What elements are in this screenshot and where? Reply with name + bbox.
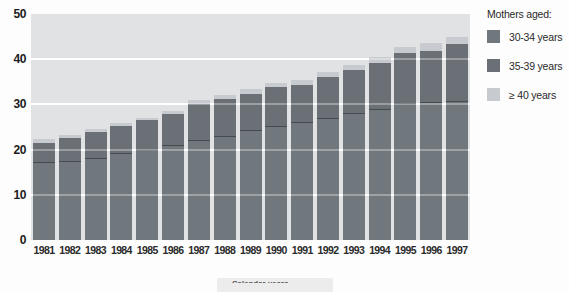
gridline-overlay-40 (31, 58, 470, 60)
bar-segment-1996-30-34 (420, 103, 442, 240)
bar-segment-1981-30-34 (33, 163, 55, 240)
bar-1987 (188, 100, 210, 240)
bar-segment-1990-40plus (265, 83, 287, 87)
legend-swatch-icon (487, 30, 500, 43)
y-tick-label-50: 50 (0, 7, 26, 21)
bar-segment-1989-40plus (240, 89, 262, 94)
bar-1996 (420, 42, 442, 240)
bar-segment-1983-30-34 (85, 159, 107, 240)
bar-1995 (394, 47, 416, 240)
x-tick-label-1997: 1997 (437, 244, 477, 256)
bar-1988 (214, 95, 236, 240)
bar-1989 (240, 89, 262, 240)
legend-item-35-39: 35-39 years (487, 59, 567, 72)
legend-item-label: 30-34 years (509, 31, 562, 43)
bar-segment-1993-35-39 (343, 70, 365, 115)
bar-segment-1987-30-34 (188, 141, 210, 240)
legend-item-40plus: ≥ 40 years (487, 88, 567, 101)
legend-item-label: ≥ 40 years (509, 89, 556, 101)
clipped-caption-text: Calendar years (232, 279, 333, 283)
bar-segment-1990-30-34 (265, 127, 287, 240)
y-tick-label-20: 20 (0, 143, 26, 157)
bar-segment-1983-40plus (85, 129, 107, 132)
bar-segment-1982-30-34 (59, 162, 81, 240)
legend-swatch-icon (487, 59, 500, 72)
bar-segment-1992-35-39 (317, 77, 339, 119)
bar-segment-1992-40plus (317, 72, 339, 77)
bar-segment-1993-40plus (343, 65, 365, 70)
bar-segment-1982-40plus (59, 135, 81, 138)
bar-segment-1995-30-34 (394, 104, 416, 241)
legend-item-30-34: 30-34 years (487, 30, 567, 43)
bar-segment-1992-30-34 (317, 119, 339, 240)
bar-segment-1985-35-39 (136, 120, 158, 150)
bar-segment-1981-35-39 (33, 143, 55, 163)
bar-segment-1986-35-39 (162, 114, 184, 145)
bar-segment-1987-35-39 (188, 104, 210, 140)
gridline-overlay-20 (31, 149, 470, 151)
bar-segment-1986-40plus (162, 111, 184, 114)
clipped-caption-box: Calendar years (217, 278, 333, 292)
plot-area (31, 14, 470, 240)
bar-segment-1991-40plus (291, 80, 313, 85)
bar-segment-1997-35-39 (446, 44, 468, 102)
legend-items: 30-34 years35-39 years≥ 40 years (487, 30, 567, 101)
bar-segment-1981-40plus (33, 139, 55, 143)
gridline-overlay-10 (31, 194, 470, 196)
gridline-overlay-30 (31, 103, 470, 105)
bar-segment-1991-30-34 (291, 123, 313, 240)
bar-1983 (85, 129, 107, 240)
bar-segment-1983-35-39 (85, 132, 107, 159)
y-tick-label-10: 10 (0, 188, 26, 202)
bar-segment-1996-40plus (420, 43, 442, 51)
y-tick-label-30: 30 (0, 97, 26, 111)
bar-segment-1993-30-34 (343, 114, 365, 240)
bar-1984 (110, 123, 132, 240)
y-tick-label-40: 40 (0, 52, 26, 66)
bar-1990 (265, 83, 287, 240)
y-tick-label-0: 0 (0, 233, 26, 247)
bar-1993 (343, 65, 365, 240)
legend-swatch-icon (487, 88, 500, 101)
bar-segment-1989-30-34 (240, 131, 262, 240)
bar-segment-1984-30-34 (110, 154, 132, 240)
bar-1997 (446, 37, 468, 240)
bar-segment-1986-30-34 (162, 146, 184, 240)
bar-1986 (162, 111, 184, 240)
bar-segment-1997-40plus (446, 37, 468, 45)
bar-1992 (317, 72, 339, 240)
bar-1985 (136, 118, 158, 240)
bar-segment-1990-35-39 (265, 87, 287, 127)
bar-segment-1988-30-34 (214, 137, 236, 240)
bar-segment-1995-40plus (394, 47, 416, 54)
bar-segment-1984-40plus (110, 123, 132, 126)
bar-segment-1988-40plus (214, 95, 236, 99)
bar-segment-1995-35-39 (394, 53, 416, 103)
bar-segment-1997-30-34 (446, 102, 468, 240)
legend: Mothers aged: 30-34 years35-39 years≥ 40… (487, 8, 567, 117)
bar-1981 (33, 139, 55, 240)
legend-item-label: 35-39 years (509, 60, 562, 72)
bar-segment-1994-30-34 (369, 110, 391, 240)
legend-title: Mothers aged: (487, 8, 567, 20)
bar-segment-1985-40plus (136, 118, 158, 121)
bar-segment-1989-35-39 (240, 94, 262, 132)
